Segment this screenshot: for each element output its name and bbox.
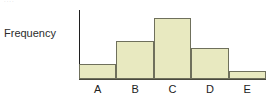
x-axis-tick-labels: ABCDE [79,82,266,96]
cropped-text-remnant: ···· [4,0,34,3]
x-tick-label: E [229,82,266,96]
y-axis-title: Frequency [4,27,56,40]
bar [229,71,266,79]
bar [191,48,228,79]
x-tick-label: B [116,82,153,96]
bar-series [79,10,266,79]
plot-area [79,10,266,80]
histogram-figure: ···· Frequency ABCDE [0,0,275,98]
x-tick-label: C [154,82,191,96]
bar [154,18,191,79]
x-tick-label: A [79,82,116,96]
bar [79,64,116,79]
bar [116,41,153,79]
x-tick-label: D [191,82,228,96]
x-axis-line [79,79,266,80]
